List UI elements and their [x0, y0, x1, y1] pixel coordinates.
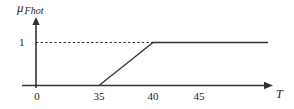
y-axis-label-base: μ — [17, 0, 24, 15]
y-axis-label: μFhot — [17, 1, 42, 14]
membership-curve — [99, 43, 268, 86]
y-tick-label-1: 1 — [19, 37, 25, 48]
x-tick-label-0: 0 — [34, 90, 40, 102]
x-axis-label: T — [276, 88, 283, 100]
y-axis-label-subscript: Fhot — [25, 5, 44, 16]
x-tick-label-35: 35 — [94, 90, 105, 102]
x-axis — [22, 82, 273, 89]
x-axis-arrowhead — [264, 82, 273, 89]
x-tick-label-40: 40 — [148, 90, 159, 102]
membership-function-figure: μFhot 1 0 35 40 45 T — [0, 0, 294, 109]
y-axis-arrowhead — [32, 17, 39, 25]
y-axis — [32, 17, 39, 88]
x-tick-label-45: 45 — [194, 90, 205, 102]
